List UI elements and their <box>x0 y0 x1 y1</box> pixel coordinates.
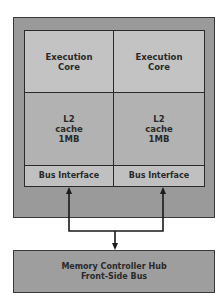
memory-controller-hub: Memory Controller Hub Front-Side Bus <box>13 250 215 293</box>
up-arrowhead-icon <box>160 187 166 194</box>
bus-connector-line <box>69 192 163 231</box>
mch-label: Memory Controller Hub <box>61 262 166 272</box>
fsb-label: Front-Side Bus <box>81 272 147 282</box>
down-arrowhead-icon <box>112 243 118 250</box>
up-arrowhead-icon <box>66 187 72 194</box>
